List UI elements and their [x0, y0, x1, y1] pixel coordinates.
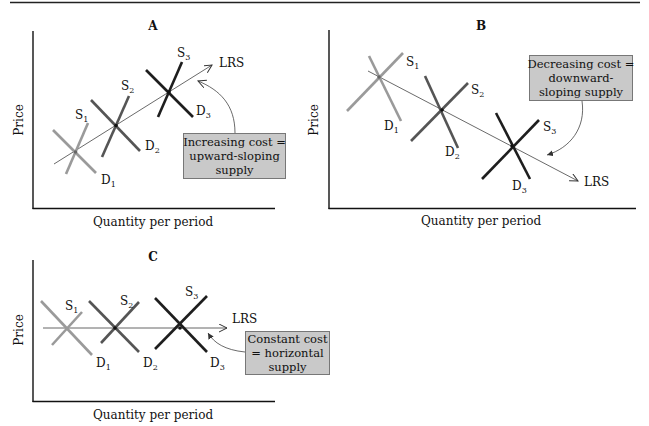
panel-b-callout-line-1: Decreasing cost = [528, 57, 635, 71]
panel-b-eq1-point [377, 75, 381, 79]
panel-b-callout-line-3: sloping supply [539, 85, 623, 99]
panel-a-eq1-point [74, 150, 78, 154]
panel-c-callout-line-3: supply [268, 360, 306, 374]
panel-a-d1-label: D1 [101, 173, 116, 189]
panel-b-s1-curve [347, 53, 403, 111]
panel-b-eq2-point [440, 108, 444, 112]
panel-c: C Price Quantity per period LRS S1 D1 S2… [12, 250, 275, 422]
panel-b-d3-label: D3 [512, 179, 527, 195]
panel-c-s3-label: S3 [185, 285, 198, 301]
panel-a-eq3-point [167, 90, 171, 94]
panel-c-d3-curve [155, 298, 207, 352]
panel-b-s2-label: S2 [471, 83, 484, 99]
panel-a-callout-line-2: upward-sloping [189, 149, 280, 163]
panel-b-d1-label: D1 [384, 119, 399, 135]
panel-b-s2-curve [411, 83, 468, 141]
panel-b-lrs-label: LRS [584, 175, 609, 189]
panel-c-x-label: Quantity per period [93, 408, 213, 422]
panel-a-d2-label: D2 [145, 139, 160, 155]
panel-b-d2-curve [425, 76, 458, 148]
panel-c-callout-arrow [208, 333, 245, 352]
panel-c-s2-label: S2 [120, 294, 133, 310]
panel-a-d3-label: D3 [196, 104, 211, 120]
panel-b-callout-box: Decreasing cost = downward- sloping supp… [529, 55, 633, 101]
panel-a-lrs-label: LRS [219, 56, 244, 70]
panel-a-s2-label: S2 [121, 79, 134, 95]
panel-a-callout-line-3: supply [215, 163, 253, 177]
panel-c-callout-line-1: Constant cost [247, 332, 327, 346]
panel-a-title: A [147, 19, 158, 33]
panel-b-s1-label: S1 [406, 55, 419, 71]
panel-b-eq3-point [510, 144, 514, 148]
panel-b-s3-label: S3 [543, 120, 556, 136]
panel-c-eq3-point [178, 326, 182, 330]
panel-a-y-label: Price [12, 104, 26, 135]
panel-b-s3-curve [482, 120, 539, 179]
panel-b-callout-line-2: downward- [549, 71, 614, 85]
panel-b-y-label: Price [307, 104, 321, 135]
panel-a-s1-curve [66, 123, 88, 174]
panel-a: A Price Quantity per period LRS S1 D1 S2… [12, 19, 275, 229]
panel-b-title: B [476, 19, 486, 33]
panel-b-x-label: Quantity per period [421, 214, 541, 228]
panel-c-s3-curve [155, 296, 207, 349]
panel-b-d1-curve [369, 56, 401, 121]
panel-a-eq2-point [114, 124, 118, 128]
panel-c-callout-box: Constant cost = horizontal supply [245, 331, 330, 375]
panel-c-y-label: Price [12, 314, 26, 345]
panel-a-s3-label: S3 [177, 46, 190, 62]
panel-a-s1-label: S1 [75, 108, 88, 124]
panel-a-s3-curve [158, 62, 182, 117]
panel-c-d1-label: D1 [96, 356, 111, 372]
panel-c-lrs-label: LRS [232, 312, 257, 326]
panel-c-eq2-point [113, 326, 117, 330]
panel-a-x-label: Quantity per period [93, 215, 213, 229]
panel-c-title: C [148, 250, 158, 264]
panel-c-d2-label: D2 [143, 356, 158, 372]
panel-c-callout-line-2: = horizontal [251, 346, 323, 360]
panel-a-callout-line-1: Increasing cost = [183, 135, 286, 149]
panel-a-callout-box: Increasing cost = upward-sloping supply [183, 133, 286, 179]
panel-c-d3-label: D3 [210, 356, 225, 372]
panel-b: B Price Quantity per period LRS S1 D1 S2… [307, 19, 636, 228]
panel-c-s1-label: S1 [65, 299, 78, 315]
